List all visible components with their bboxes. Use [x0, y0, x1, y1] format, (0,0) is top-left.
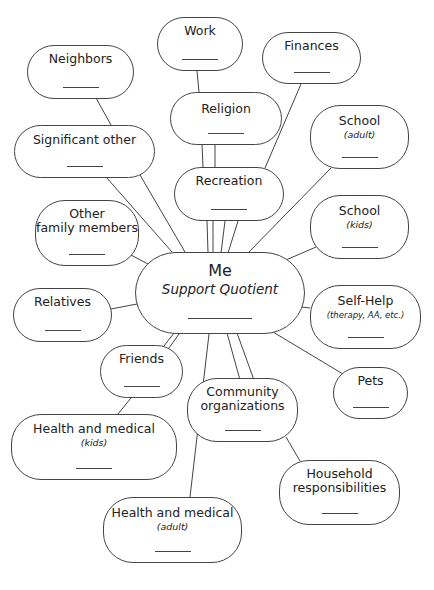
node-title-line2: family members	[36, 221, 138, 235]
blank-line	[67, 166, 103, 167]
edge-neighbors-significant-other	[96, 98, 111, 125]
node-school-adult: School (adult)	[310, 105, 409, 169]
blank-line	[342, 157, 378, 158]
node-pets: Pets	[333, 367, 408, 419]
edge-community-me	[237, 333, 254, 380]
node-me-support-quotient: Me Support Quotient	[135, 252, 305, 334]
node-title: School	[311, 106, 408, 128]
node-recreation: Recreation	[174, 167, 284, 221]
blank-line	[208, 133, 244, 134]
edge-community-household	[286, 437, 300, 461]
blank-line	[155, 551, 191, 552]
node-relatives: Relatives	[13, 288, 112, 342]
node-title: Household	[280, 461, 399, 481]
blank-line	[294, 72, 330, 73]
node-neighbors: Neighbors	[27, 45, 134, 99]
node-title: Community	[188, 379, 297, 399]
node-title: Friends	[101, 346, 182, 366]
node-title: Neighbors	[28, 46, 133, 66]
blank-line	[225, 430, 261, 431]
center-subtitle: Support Quotient	[136, 281, 304, 297]
blank-line	[76, 468, 112, 469]
edge-relatives-me	[111, 304, 137, 309]
blank-line	[342, 247, 378, 248]
node-significant-other: Significant other	[14, 125, 155, 178]
node-title: Relatives	[14, 289, 111, 309]
node-subtitle: (adult)	[104, 521, 241, 533]
node-friends: Friends	[100, 345, 183, 398]
node-subtitle: (kids)	[311, 219, 408, 231]
node-title: Self-Help	[311, 286, 420, 308]
node-religion: Religion	[170, 92, 282, 145]
blank-line	[182, 59, 218, 60]
node-title: School	[311, 196, 408, 218]
node-subtitle: (kids)	[12, 437, 176, 449]
center-title: Me	[136, 253, 304, 280]
edge-recreation-me	[221, 221, 225, 253]
edge-friends-me	[164, 333, 174, 346]
blank-line	[211, 209, 247, 210]
blank-line	[45, 330, 81, 331]
node-title: Health and medical	[104, 498, 241, 520]
blank-line	[348, 337, 384, 338]
node-title: Health and medical	[12, 415, 176, 436]
edge-friends-health-kids	[118, 398, 131, 414]
blank-line	[353, 407, 389, 408]
node-title: Recreation	[175, 168, 283, 188]
node-other-family-members: Other family members	[35, 200, 139, 266]
node-title: Religion	[171, 93, 281, 116]
blank-line	[188, 318, 252, 319]
edge-religion-recreation	[202, 144, 203, 167]
node-finances: Finances	[262, 32, 361, 84]
edge-recreation-me	[207, 221, 208, 253]
node-community-organizations: Community organizations	[187, 378, 298, 442]
node-title: Other	[36, 201, 138, 221]
node-title: Finances	[263, 33, 360, 53]
node-subtitle: (adult)	[311, 129, 408, 141]
blank-line	[322, 513, 358, 514]
blank-line	[63, 87, 99, 88]
node-title: Significant other	[15, 126, 154, 147]
node-subtitle: (therapy, AA, etc.)	[311, 309, 420, 321]
edge-community-me	[227, 333, 240, 380]
node-title-line2: organizations	[188, 399, 297, 413]
node-self-help: Self-Help (therapy, AA, etc.)	[310, 285, 421, 349]
blank-line	[69, 254, 105, 255]
node-school-kids: School (kids)	[310, 195, 409, 259]
node-title-line2: responsibilities	[280, 481, 399, 495]
node-health-medical-kids: Health and medical (kids)	[11, 414, 177, 480]
blank-line	[124, 386, 160, 387]
node-health-medical-adult: Health and medical (adult)	[103, 497, 242, 563]
node-household-responsibilities: Household responsibilities	[279, 460, 400, 525]
edge-recreation-me	[228, 221, 238, 253]
edge-work-religion	[197, 71, 199, 92]
node-title: Pets	[334, 368, 407, 388]
node-title: Work	[158, 18, 242, 38]
node-work: Work	[157, 17, 243, 71]
